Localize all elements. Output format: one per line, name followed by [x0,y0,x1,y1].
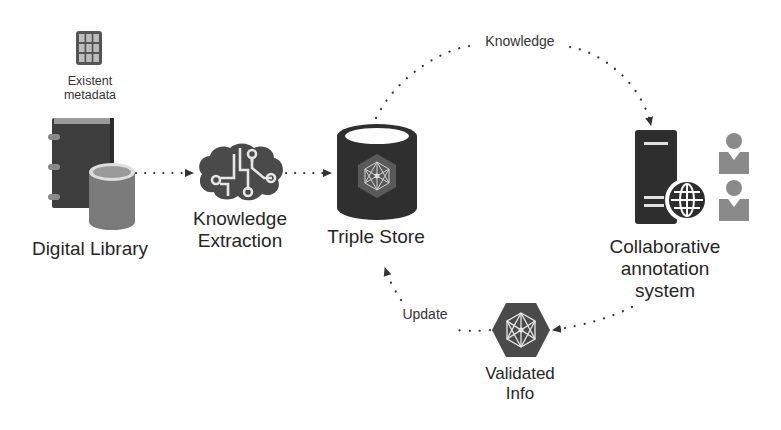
library-label: Digital Library [25,238,155,260]
extraction-label-line2: Extraction [178,230,302,252]
validated-label-line1: Validated [470,364,570,384]
annotation-label-line3: system [600,280,730,302]
book-database-icon [44,114,140,232]
brain-circuit-icon [194,140,286,204]
edge-validated-triplestore-part2 [385,268,401,300]
metadata-label: Existent metadata [50,74,130,103]
validated-label-line2: Info [470,384,570,404]
metadata-label-line2: metadata [50,88,130,102]
triplestore-label: Triple Store [320,226,432,248]
annotation-label: Collaborative annotation system [600,236,730,302]
server-globe-users-icon [630,128,760,228]
edge-triplestore-annotation [376,46,470,118]
extraction-label: Knowledge Extraction [178,208,302,252]
metadata-label-line1: Existent [50,74,130,88]
edge-annotation-validated [553,307,632,330]
database-graph-icon [334,122,420,222]
extraction-label-line1: Knowledge [178,208,302,230]
annotation-label-line2: annotation [600,258,730,280]
hexagon-graph-icon [491,302,551,358]
edge-label-update: Update [390,306,460,322]
edge-validated-triplestore [455,330,490,331]
edge-triplestore-annotation-part2 [570,47,651,125]
grid-table-icon [75,30,103,66]
validated-label: Validated Info [470,364,570,403]
annotation-label-line1: Collaborative [600,236,730,258]
edge-label-knowledge: Knowledge [470,33,570,49]
